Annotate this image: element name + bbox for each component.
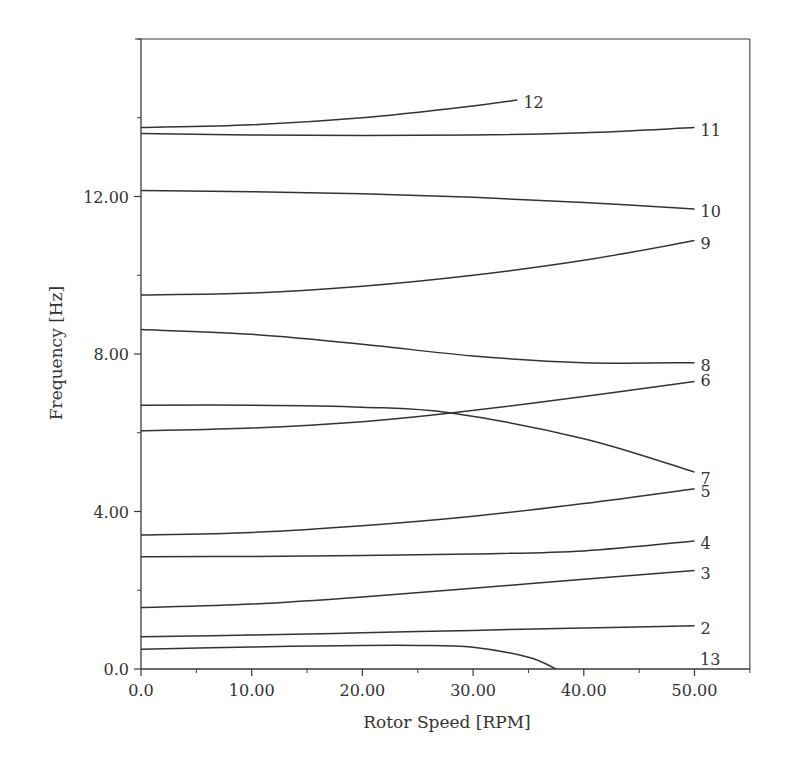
x-axis-label: Rotor Speed [RPM] — [363, 712, 530, 732]
series-label-3: 3 — [701, 564, 711, 583]
series-label-7: 7 — [701, 469, 711, 488]
series-line-6 — [141, 382, 695, 431]
series-label-13: 13 — [700, 650, 720, 669]
x-tick-label: 10.00 — [229, 681, 275, 700]
series-label-9: 9 — [701, 234, 711, 253]
series-line-9 — [141, 241, 695, 295]
series-line-13 — [141, 645, 556, 669]
x-tick-label: 40.00 — [561, 681, 607, 700]
series-label-4: 4 — [701, 534, 711, 553]
series-line-12 — [141, 100, 517, 128]
series-label-11: 11 — [701, 121, 721, 140]
series-label-8: 8 — [701, 356, 711, 375]
series-label-10: 10 — [701, 202, 721, 221]
series-line-5 — [141, 489, 695, 535]
data-series — [141, 100, 695, 669]
x-tick-label: 0.0 — [128, 681, 153, 700]
series-line-7 — [141, 405, 695, 472]
axis-ticks: 0.010.0020.0030.0040.0050.000.04.008.001… — [83, 39, 750, 700]
series-labels: 2345678910111213 — [523, 93, 720, 669]
series-line-3 — [141, 571, 695, 608]
y-tick-label: 8.00 — [93, 345, 129, 364]
x-tick-label: 20.00 — [339, 681, 385, 700]
chart-svg: 0.010.0020.0030.0040.0050.000.04.008.001… — [0, 0, 792, 771]
x-tick-label: 50.00 — [672, 681, 718, 700]
series-line-2 — [141, 626, 695, 637]
y-tick-label: 4.00 — [93, 503, 129, 522]
series-line-8 — [141, 330, 695, 364]
series-line-4 — [141, 541, 695, 557]
y-tick-label: 0.0 — [104, 660, 129, 679]
series-line-10 — [141, 191, 695, 210]
y-axis-label: Frequency [Hz] — [46, 286, 66, 420]
campbell-diagram: 0.010.0020.0030.0040.0050.000.04.008.001… — [0, 0, 792, 771]
series-label-2: 2 — [701, 619, 711, 638]
y-tick-label: 12.00 — [83, 188, 129, 207]
series-line-11 — [141, 128, 695, 136]
x-tick-label: 30.00 — [450, 681, 496, 700]
axes-frame — [135, 39, 750, 669]
series-label-12: 12 — [523, 93, 543, 112]
